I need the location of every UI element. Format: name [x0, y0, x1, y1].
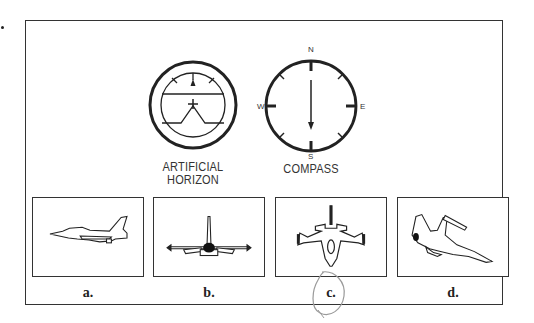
compass-west-label: W: [257, 102, 265, 111]
option-d-box[interactable]: [397, 197, 509, 277]
compass-icon: [266, 61, 356, 151]
compass-north-label: N: [308, 45, 314, 54]
option-a-label: a.: [32, 285, 144, 301]
option-a-box[interactable]: [32, 197, 144, 277]
compass-east-label: E: [360, 102, 365, 111]
option-b-label: b.: [153, 285, 265, 301]
artificial-horizon-label-line2: HORIZON: [149, 174, 237, 187]
jet-banked-view-icon: [398, 198, 508, 276]
jet-side-view-icon: [33, 198, 143, 276]
jet-top-view-icon: [276, 198, 386, 276]
option-c-box[interactable]: [275, 197, 387, 277]
compass-label: COMPASS: [267, 163, 355, 176]
jet-rear-view-icon: [154, 198, 264, 276]
compass-south-label: S: [308, 152, 313, 161]
option-c-label: c.: [275, 285, 387, 301]
option-d-label: d.: [397, 285, 509, 301]
artificial-horizon-label: ARTIFICIAL HORIZON: [149, 161, 237, 187]
option-b-box[interactable]: [153, 197, 265, 277]
artificial-horizon-icon: [150, 62, 236, 148]
